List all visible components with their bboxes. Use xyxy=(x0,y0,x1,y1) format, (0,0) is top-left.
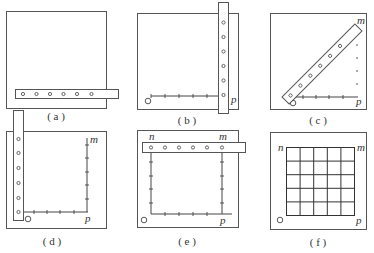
panel-a: ( a ) xyxy=(7,12,119,124)
panel-d-caption: ( d ) xyxy=(43,235,62,248)
panel-a-caption: ( a ) xyxy=(47,110,65,123)
panel-f-caption: ( f ) xyxy=(310,236,327,249)
panel-d: p m ( d ) xyxy=(7,111,107,249)
panel-f-label-n: n xyxy=(278,141,284,153)
panel-d-ticks xyxy=(34,145,89,214)
panel-f-grid xyxy=(287,148,355,216)
panel-b: p ( b ) xyxy=(138,3,239,128)
panel-e-label-p: p xyxy=(219,214,226,226)
panel-b-origin xyxy=(145,98,151,104)
panel-f-label-m: m xyxy=(357,141,365,153)
panel-f-label-p: p xyxy=(355,214,362,226)
panel-e-caption: ( e ) xyxy=(178,235,196,248)
panel-f: n m p ( f ) xyxy=(271,133,367,250)
panel-c-bar-group xyxy=(282,24,362,104)
panel-c: p m ( c ) xyxy=(271,14,367,128)
panel-e-label-n: n xyxy=(149,130,155,142)
panel-e-origin xyxy=(141,217,147,223)
panel-c-bar xyxy=(282,24,362,104)
panel-d-bar xyxy=(14,111,24,221)
panel-c-caption: ( c ) xyxy=(309,114,327,127)
panel-b-label-p: p xyxy=(230,93,237,105)
panel-d-origin xyxy=(25,216,31,222)
panel-d-label-m: m xyxy=(90,133,98,145)
panel-c-label-m: m xyxy=(357,14,365,26)
panel-a-bar xyxy=(16,90,119,99)
panel-f-origin xyxy=(277,217,283,223)
panel-d-label-p: p xyxy=(84,212,91,224)
figure-canvas: ( a ) p ( b ) xyxy=(0,0,374,253)
panel-e-label-m: m xyxy=(219,130,227,142)
panel-c-label-p: p xyxy=(355,95,362,107)
panel-e-ticks xyxy=(149,162,224,216)
panel-e: n m p ( e ) xyxy=(138,130,246,248)
panel-b-caption: ( b ) xyxy=(178,114,197,127)
